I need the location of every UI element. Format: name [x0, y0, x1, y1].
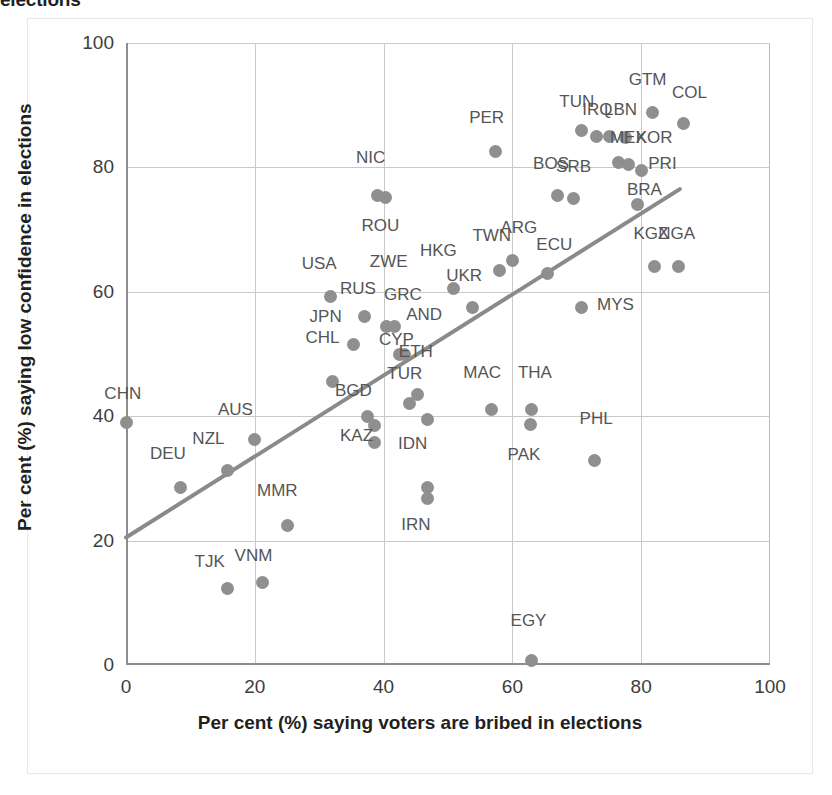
point-label: CHN [104, 384, 141, 404]
point-label: THA [518, 363, 552, 383]
point-label: ETH [399, 342, 433, 362]
point-label: NZL [192, 429, 224, 449]
point-label: GTM [629, 70, 667, 90]
point-label: IDN [398, 434, 427, 454]
point-label: ROU [361, 216, 399, 236]
point-label: USA [302, 254, 337, 274]
data-point [677, 117, 690, 130]
x-tick-label: 80 [631, 676, 652, 698]
data-point [541, 267, 554, 280]
data-point [421, 413, 434, 426]
data-point [281, 519, 294, 532]
point-label: COL [672, 83, 707, 103]
chart-page: elections Per cent (%) saying low confid… [0, 0, 832, 795]
gridline-vertical [512, 43, 513, 665]
x-axis-line [126, 663, 770, 665]
data-point [635, 164, 648, 177]
plot-area: CHNDEUNZLTJKAUSVNMMMRUSACHLJPNRUSBGDKAZN… [126, 43, 770, 665]
point-label: KAZ [340, 426, 373, 446]
data-point [493, 264, 506, 277]
gridline-horizontal [126, 541, 770, 542]
point-label: MYS [597, 295, 634, 315]
data-point [575, 124, 588, 137]
data-point [347, 338, 360, 351]
x-tick-label: 100 [754, 676, 786, 698]
point-label: MMR [257, 481, 298, 501]
point-label: NIC [356, 148, 385, 168]
y-tick-label: 60 [93, 281, 114, 303]
point-label: PRI [648, 154, 676, 174]
x-axis-tick-labels: 020406080100 [126, 676, 770, 702]
point-label: PAK [508, 445, 541, 465]
point-label: ARG [500, 218, 537, 238]
point-label: HKG [420, 241, 457, 261]
y-tick-label: 20 [93, 530, 114, 552]
point-label: AUS [218, 400, 253, 420]
x-tick-label: 60 [502, 676, 523, 698]
point-label: KOR [636, 128, 673, 148]
point-label: JPN [310, 307, 342, 327]
y-tick-label: 40 [93, 405, 114, 427]
y-tick-label: 0 [103, 654, 114, 676]
x-tick-label: 0 [121, 676, 132, 698]
y-axis-title: Per cent (%) saying low confidence in el… [14, 111, 36, 531]
data-point [358, 310, 371, 323]
y-tick-label: 100 [82, 32, 114, 54]
point-label: DEU [150, 444, 186, 464]
point-label: MAC [463, 363, 501, 383]
data-point [379, 191, 392, 204]
data-point [489, 145, 502, 158]
gridline-vertical [255, 43, 256, 665]
y-axis-tick-labels: 020406080100 [56, 43, 114, 665]
point-label: LBN [604, 100, 637, 120]
point-label: UKR [446, 266, 482, 286]
data-point [466, 301, 479, 314]
data-point [590, 130, 603, 143]
x-tick-label: 20 [244, 676, 265, 698]
x-axis-title: Per cent (%) saying voters are bribed in… [27, 712, 813, 734]
point-label: SRB [556, 157, 591, 177]
chart-title-clipped: elections [0, 0, 400, 14]
y-axis-line [126, 43, 128, 665]
data-point [551, 189, 564, 202]
point-label: VNM [235, 546, 273, 566]
chart-title-text: elections [0, 0, 400, 14]
point-label: PHL [580, 409, 613, 429]
data-point [421, 492, 434, 505]
point-label: ECU [536, 235, 572, 255]
point-label: AND [406, 305, 442, 325]
data-point [506, 254, 519, 267]
data-point [248, 433, 261, 446]
point-label: PER [469, 108, 504, 128]
point-label: CHL [305, 328, 339, 348]
gridline-vertical [384, 43, 385, 665]
data-point [120, 416, 133, 429]
y-tick-label: 80 [93, 156, 114, 178]
data-point [567, 192, 580, 205]
point-label: EGY [511, 611, 547, 631]
data-point [648, 260, 661, 273]
point-label: BGD [335, 381, 372, 401]
gridline-horizontal [126, 43, 770, 44]
point-label: TJK [195, 552, 225, 572]
point-label: NGA [658, 224, 695, 244]
point-label: RUS [340, 279, 376, 299]
data-point [622, 158, 635, 171]
x-tick-label: 40 [373, 676, 394, 698]
data-point [525, 654, 538, 667]
point-label: ZWE [370, 252, 408, 272]
point-label: IRN [401, 515, 430, 535]
point-label: TUR [387, 364, 422, 384]
point-label: GRC [384, 285, 422, 305]
point-label: BRA [627, 180, 662, 200]
